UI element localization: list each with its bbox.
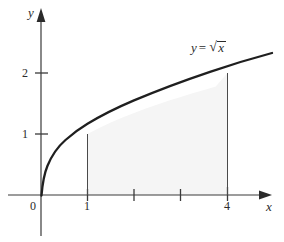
radical-expression: √x — [209, 41, 224, 54]
x-tick-label-1: 1 — [84, 200, 90, 212]
radical-vinculum — [217, 41, 226, 42]
y-tick-label-2: 2 — [22, 67, 28, 79]
equation-operator: = — [197, 40, 208, 55]
x-axis-label: x — [266, 200, 272, 213]
y-axis-arrowhead — [37, 8, 46, 22]
radical-sign-icon: √ — [209, 40, 217, 54]
plot-canvas — [0, 0, 284, 242]
origin-label: 0 — [30, 200, 36, 212]
radicand: x — [218, 40, 224, 55]
equation-lhs: y — [191, 40, 197, 55]
x-tick-label-4: 4 — [224, 200, 230, 212]
sqrt-function-figure: y x 0 1 4 1 2 y=√x — [0, 0, 284, 242]
y-tick-label-1: 1 — [22, 128, 28, 140]
curve-equation-label: y=√x — [191, 41, 224, 54]
y-axis-label: y — [28, 6, 34, 19]
